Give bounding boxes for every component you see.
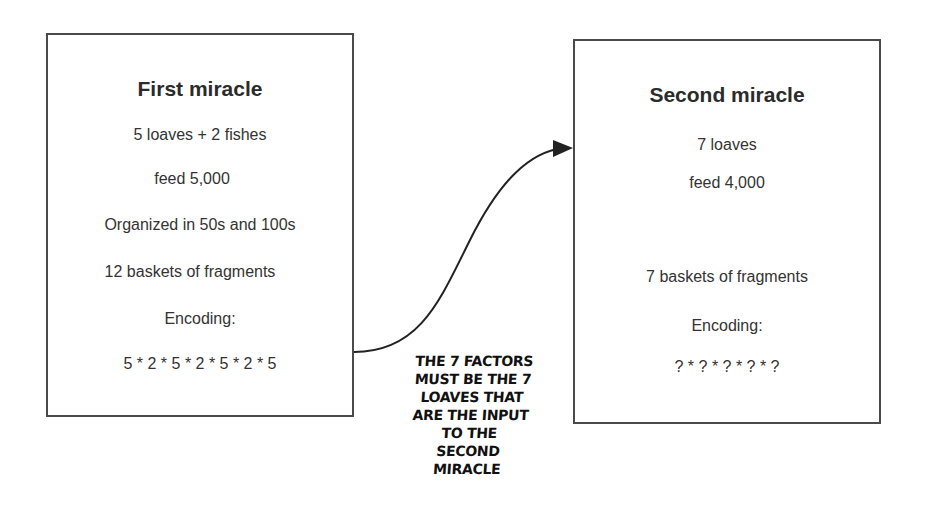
second-miracle-encoding-value: ? * ? * ? * ? * ? (575, 358, 879, 376)
first-miracle-title: First miracle (48, 77, 352, 101)
second-miracle-baskets: 7 baskets of fragments (575, 268, 879, 286)
first-miracle-loaves-fishes: 5 loaves + 2 fishes (48, 126, 352, 144)
second-miracle-encoding-label: Encoding: (575, 317, 879, 335)
first-miracle-box: First miracle 5 loaves + 2 fishes feed 5… (46, 33, 354, 417)
first-miracle-baskets: 12 baskets of fragments (38, 263, 342, 281)
handwritten-annotation: THE 7 FACTORS MUST BE THE 7 LOAVES THAT … (374, 352, 568, 478)
annotation-line: ARE THE INPUT (377, 406, 563, 424)
first-miracle-organized: Organized in 50s and 100s (48, 216, 352, 234)
annotation-line: THE 7 FACTORS (381, 352, 567, 370)
annotation-line: TO THE (376, 424, 562, 442)
second-miracle-title: Second miracle (575, 83, 879, 107)
first-miracle-encoding-value: 5 * 2 * 5 * 2 * 5 * 2 * 5 (48, 355, 352, 373)
second-miracle-box: Second miracle 7 loaves feed 4,000 7 bas… (573, 39, 881, 424)
second-miracle-feed-count: feed 4,000 (575, 174, 879, 192)
annotation-line: SECOND (375, 442, 561, 460)
annotation-line: MIRACLE (374, 460, 560, 478)
first-miracle-feed-count: feed 5,000 (40, 170, 344, 188)
second-miracle-loaves: 7 loaves (575, 136, 879, 154)
first-miracle-encoding-label: Encoding: (48, 310, 352, 328)
annotation-line: LOAVES THAT (379, 388, 565, 406)
annotation-line: MUST BE THE 7 (380, 370, 566, 388)
arrowhead-icon (553, 140, 573, 157)
